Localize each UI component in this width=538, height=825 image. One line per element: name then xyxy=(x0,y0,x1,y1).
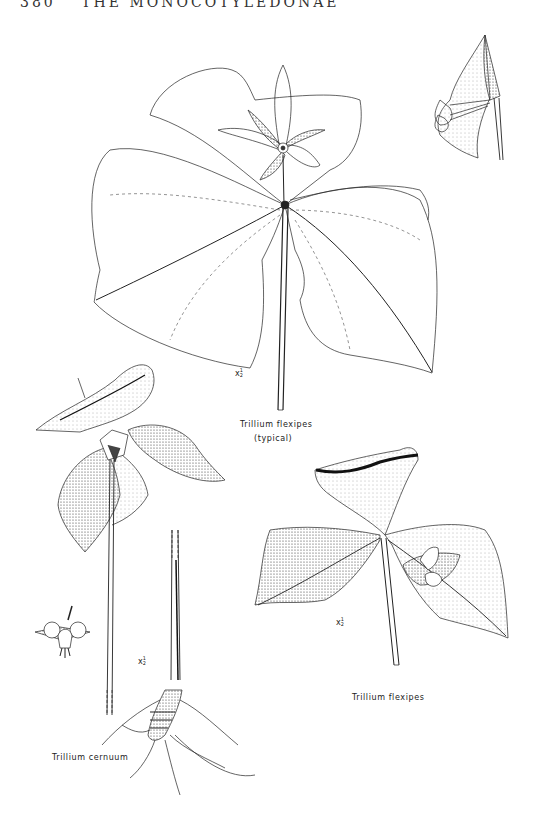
figure-trillium-cernuum xyxy=(35,365,255,795)
scale-marker-flexipes-typical: x12 xyxy=(235,368,243,378)
scale-den: 2 xyxy=(143,660,146,666)
scale-marker-cernuum: x12 xyxy=(138,656,146,666)
caption-flexipes-typical-qualifier: (typical) xyxy=(254,434,292,443)
scale-marker-flexipes: x12 xyxy=(336,617,344,627)
scale-fraction: 12 xyxy=(240,368,243,378)
caption-flexipes: Trillium flexipes xyxy=(352,693,424,702)
scale-fraction: 12 xyxy=(341,617,344,627)
caption-flexipes-typical: Trillium flexipes xyxy=(240,420,312,429)
caption-cernuum: Trillium cernuum xyxy=(52,753,128,762)
scale-den: 2 xyxy=(240,372,243,378)
scale-fraction: 12 xyxy=(143,656,146,666)
figure-trillium-flexipes-typical xyxy=(92,65,437,410)
scale-den: 2 xyxy=(341,621,344,627)
figure-trillium-flexipes xyxy=(255,448,508,665)
botanical-illustration xyxy=(0,0,538,825)
figure-flower-side-detail xyxy=(435,35,503,160)
